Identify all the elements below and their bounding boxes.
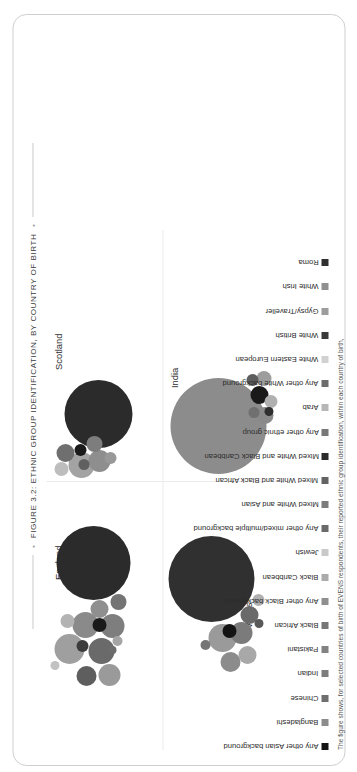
legend-label: Arab [302, 404, 318, 412]
legend-swatch [321, 332, 328, 339]
legend-label: Mixed White and Asian [241, 501, 318, 509]
legend-swatch [321, 429, 328, 436]
legend-item[interactable]: Jewish [295, 532, 328, 556]
legend-label: Roma [298, 259, 318, 267]
panel-divider-horizontal [162, 230, 163, 750]
legend-swatch [321, 646, 328, 653]
legend-swatch [321, 598, 328, 605]
legend-swatch [321, 477, 328, 484]
legend-label: Black Caribbean [262, 573, 318, 581]
figure-page: ▪ FIGURE 3.2: ETHNIC GROUP IDENTIFICATIO… [0, 0, 357, 772]
bubble-pakistani[interactable] [56, 444, 74, 462]
legend-label: Gypsy/Traveller [265, 307, 318, 315]
title-rule-right [32, 143, 33, 217]
bubble-chinese[interactable] [54, 462, 68, 476]
legend-label: Jewish [295, 549, 318, 557]
bubble-black-african[interactable] [76, 640, 88, 652]
legend-swatch [321, 380, 328, 387]
bubble-any-other-white[interactable] [264, 395, 277, 408]
bubble-arab[interactable] [112, 636, 122, 646]
bubble-black-caribbean[interactable] [220, 652, 240, 672]
legend-label: Mixed White and Black Caribbean [204, 452, 318, 460]
bubble-roma[interactable] [108, 646, 116, 654]
legend-label: White British [275, 331, 318, 339]
legend-item[interactable]: Roma [298, 242, 328, 266]
bubble-mixed-white-asian[interactable] [90, 600, 108, 618]
legend-label: Any other Asian background [223, 742, 318, 750]
legend-item[interactable]: Any other White background [222, 363, 328, 387]
legend-item[interactable]: Chinese [290, 677, 328, 701]
figure-title-row: ▪ FIGURE 3.2: ETHNIC GROUP IDENTIFICATIO… [24, 0, 40, 772]
chart-legend: Any other Asian background Bangladeshi C… [284, 50, 328, 750]
bubble-black-african[interactable] [78, 459, 89, 470]
panel-label-scotland: Scotland [52, 334, 63, 370]
legend-label: Pakistani [287, 646, 318, 654]
legend-swatch [321, 695, 328, 702]
legend-label: Black African [274, 621, 318, 629]
legend-swatch [321, 283, 328, 290]
legend-swatch [321, 574, 328, 581]
legend-swatch [321, 743, 328, 750]
legend-item[interactable]: White British [275, 315, 328, 339]
legend-swatch [321, 453, 328, 460]
legend-swatch [321, 525, 328, 532]
legend-item[interactable]: Indian [297, 653, 328, 677]
bubble-any-other-ethnic-group[interactable] [222, 624, 236, 638]
legend-label: White Eastern European [235, 355, 318, 363]
title-bullet-right: ▪ [29, 224, 36, 226]
legend-label: Mixed White and Black African [215, 476, 318, 484]
legend-item[interactable]: Any other mixed/multiple background [193, 508, 328, 532]
legend-label: Any other Black background [223, 597, 318, 605]
legend-label: Indian [297, 670, 318, 678]
legend-label: Chinese [290, 694, 318, 702]
legend-item[interactable]: Mixed White and Black Caribbean [204, 436, 328, 460]
bubble-indian[interactable] [86, 436, 102, 452]
legend-item[interactable]: Mixed White and Asian [241, 484, 328, 508]
legend-swatch [321, 501, 328, 508]
bubble-any-other-ethnic-group[interactable] [92, 618, 106, 632]
page-title: FIGURE 3.2: ETHNIC GROUP IDENTIFICATION,… [28, 234, 37, 539]
legend-item[interactable]: Gypsy/Traveller [265, 290, 328, 314]
bubble-jewish[interactable] [50, 661, 59, 670]
legend-swatch [321, 356, 328, 363]
bubble-chinese[interactable] [60, 614, 74, 628]
title-bullet-left: ▪ [29, 545, 36, 547]
legend-item[interactable]: Black Caribbean [262, 557, 328, 581]
legend-item[interactable]: Any other ethnic group [242, 411, 328, 435]
legend-item[interactable]: White Irish [282, 266, 328, 290]
bubble-bangladeshi[interactable] [200, 640, 210, 650]
legend-label: Bangladeshi [276, 718, 318, 726]
legend-item[interactable]: Bangladeshi [276, 702, 328, 726]
bubble-pakistani[interactable] [238, 646, 256, 664]
legend-item[interactable]: White Eastern European [235, 339, 328, 363]
figure-note: The figure shows, for selected countries… [336, 20, 344, 750]
legend-label: Any other ethnic group [242, 428, 318, 436]
legend-label: Any other White background [222, 380, 318, 388]
legend-item[interactable]: Any other Black background [223, 581, 328, 605]
legend-item[interactable]: Pakistani [287, 629, 328, 653]
bubble-indian[interactable] [98, 664, 120, 686]
legend-swatch [321, 259, 328, 266]
legend-swatch [321, 670, 328, 677]
legend-item[interactable]: Any other Asian background [223, 726, 328, 750]
legend-swatch [321, 308, 328, 315]
legend-swatch [321, 719, 328, 726]
legend-item[interactable]: Arab [302, 387, 328, 411]
bubble-bangladeshi[interactable] [110, 594, 126, 610]
legend-label: Any other mixed/multiple background [193, 525, 318, 533]
panel-england: England [46, 488, 160, 750]
legend-swatch [321, 550, 328, 557]
bubble-any-other-ethnic-group[interactable] [74, 444, 86, 456]
rotated-figure-stage: ▪ FIGURE 3.2: ETHNIC GROUP IDENTIFICATIO… [0, 0, 357, 772]
bubble-black-african[interactable] [254, 619, 263, 628]
legend-item[interactable]: Black African [274, 605, 328, 629]
bubble-white-british[interactable] [56, 526, 130, 600]
panel-scotland: Scotland [46, 230, 160, 478]
panel-label-india: India [168, 368, 179, 388]
bubble-pakistani[interactable] [76, 666, 96, 686]
legend-swatch [321, 622, 328, 629]
legend-swatch [321, 404, 328, 411]
legend-label: White Irish [282, 283, 318, 291]
bubble-white-irish[interactable] [104, 452, 116, 464]
legend-item[interactable]: Mixed White and Black African [215, 460, 328, 484]
